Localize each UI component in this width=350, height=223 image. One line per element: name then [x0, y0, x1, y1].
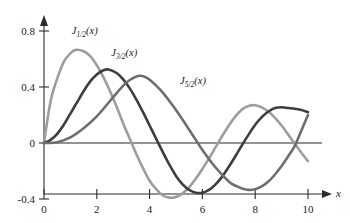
- label-j-three-half-order: 3/2: [115, 52, 126, 61]
- y-tick-label-0.4: 0.4: [21, 81, 35, 93]
- data-curves: [44, 50, 308, 198]
- y-tick-label-0: 0: [30, 137, 36, 149]
- x-axis-arrowhead: [322, 190, 332, 198]
- bessel-function-chart: 0246810 x -0.400.40.8 J1/2(x)J3/2(x)J5/2…: [0, 0, 350, 223]
- y-tick-labels: -0.400.40.8: [18, 25, 36, 205]
- label-j-five-half: J5/2(x): [180, 75, 206, 89]
- x-tick-label-2: 2: [94, 203, 100, 215]
- x-tick-label-6: 6: [200, 203, 206, 215]
- label-j-half-order: 1/2: [76, 30, 86, 39]
- label-j-five-half-order: 5/2: [185, 80, 195, 89]
- label-j-half: J1/2(x): [72, 25, 98, 39]
- label-j-five-half-argument: (x): [194, 75, 206, 87]
- label-j-three-half-argument: (x): [126, 47, 138, 59]
- x-tick-label-10: 10: [303, 203, 315, 215]
- y-axis: -0.400.40.8: [18, 15, 49, 205]
- label-j-half-argument: (x): [86, 25, 98, 37]
- curve-j-3-2-x-: [44, 69, 308, 193]
- x-tick-label-0: 0: [41, 203, 47, 215]
- x-axis-label: x: [335, 187, 341, 199]
- y-tick-label--0.4: -0.4: [18, 193, 36, 205]
- x-tick-label-4: 4: [147, 203, 153, 215]
- label-j-three-half: J3/2(x): [111, 47, 137, 61]
- x-tick-labels: 0246810: [41, 203, 314, 215]
- y-tick-label-0.8: 0.8: [21, 25, 35, 37]
- plot-area: 0246810 x -0.400.40.8 J1/2(x)J3/2(x)J5/2…: [0, 0, 350, 223]
- y-axis-arrowhead: [40, 15, 48, 26]
- x-tick-label-8: 8: [252, 203, 258, 215]
